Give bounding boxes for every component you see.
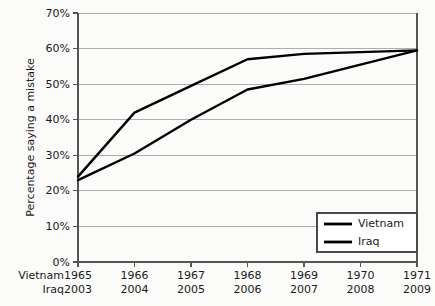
x-tick-label: 2003 — [64, 283, 92, 296]
x-tick-label: 2007 — [290, 283, 318, 296]
x-tick-label: 1967 — [177, 269, 205, 282]
y-axis-title: Percentage saying a mistake — [24, 58, 37, 217]
series-line-iraq — [78, 50, 417, 180]
x-tick-label: 1969 — [290, 269, 318, 282]
x-tick-label: 1970 — [347, 269, 375, 282]
y-axis-group: 0%10%20%30%40%50%60%70% — [46, 7, 78, 269]
series-group — [78, 50, 417, 180]
y-axis-title-group: Percentage saying a mistake — [24, 58, 37, 217]
y-tick-label: 60% — [46, 42, 70, 55]
x-tick-label: 2006 — [234, 283, 262, 296]
y-tick-label: 10% — [46, 220, 70, 233]
x-tick-label: 1968 — [234, 269, 262, 282]
y-tick-label: 0% — [53, 256, 70, 269]
chart-canvas: 0%10%20%30%40%50%60%70% Percentage sayin… — [0, 0, 435, 306]
y-tick-label: 40% — [46, 113, 70, 126]
x-axis-labels-group: Vietnam1965196619671968196919701971Iraq2… — [18, 269, 431, 296]
legend-label-iraq: Iraq — [358, 235, 380, 248]
y-tick-label: 20% — [46, 184, 70, 197]
x-tick-label: 1971 — [403, 269, 431, 282]
x-tick-label: 1966 — [121, 269, 149, 282]
x-axis-row-header-vietnam: Vietnam — [18, 269, 64, 282]
x-tick-label: 2004 — [121, 283, 149, 296]
line-chart-figure: 0%10%20%30%40%50%60%70% Percentage sayin… — [0, 0, 435, 306]
x-tick-label: 2008 — [347, 283, 375, 296]
x-axis-group — [78, 262, 417, 267]
x-tick-label: 2009 — [403, 283, 431, 296]
x-axis-row-header-iraq: Iraq — [43, 283, 65, 296]
x-tick-label: 2005 — [177, 283, 205, 296]
series-line-vietnam — [78, 50, 417, 176]
y-tick-label: 50% — [46, 78, 70, 91]
y-tick-label: 70% — [46, 7, 70, 20]
x-tick-label: 1965 — [64, 269, 92, 282]
legend-label-vietnam: Vietnam — [358, 217, 404, 230]
y-tick-label: 30% — [46, 149, 70, 162]
chart-legend: VietnamIraq — [317, 213, 417, 252]
